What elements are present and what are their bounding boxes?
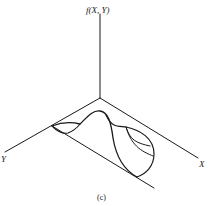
y-axis-label: Y bbox=[1, 154, 6, 164]
f-axis-label: f(X, Y) bbox=[86, 5, 110, 15]
strip-boundary-far bbox=[52, 126, 154, 188]
figure-3d-surface: f(X, Y) Y X (c) bbox=[0, 0, 208, 206]
x-axis-line bbox=[100, 98, 198, 158]
surface-profile-curve bbox=[52, 111, 137, 177]
y-axis-line bbox=[5, 98, 100, 152]
x-axis-label: X bbox=[199, 159, 205, 169]
axes-diagram bbox=[0, 0, 208, 206]
right-contour-curve bbox=[106, 115, 154, 177]
figure-caption: (c) bbox=[97, 193, 106, 203]
